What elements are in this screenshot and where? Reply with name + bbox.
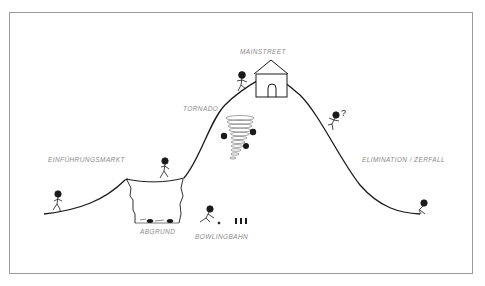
chasm: [127, 179, 183, 223]
lifecycle-illustration: [0, 0, 485, 286]
label-intro-market: EINFÜHRUNGSMARKT: [48, 156, 125, 163]
tornado-icon: [226, 116, 254, 160]
chasm-bridge: [126, 178, 184, 182]
label-decline: ELIMINATION / ZERFALL: [362, 156, 445, 163]
label-abyss: ABGRUND: [140, 228, 175, 235]
label-tornado: TORNADO: [183, 105, 218, 112]
house-icon: [254, 60, 288, 97]
label-bowling-alley: BOWLINGBAHN: [195, 233, 248, 240]
stick-figure-bowling: [200, 206, 220, 224]
question-mark: ?: [341, 108, 346, 118]
label-mainstreet: MAINSTREET: [240, 48, 286, 55]
stick-figure-bridge: [160, 158, 169, 178]
stick-figure-confused: [328, 112, 339, 130]
lifecycle-curve-rise: [184, 76, 420, 214]
stick-figure-climber: [237, 72, 247, 91]
stick-figure-intro: [53, 191, 62, 212]
bowling-pins-icon: [235, 218, 247, 224]
stick-figure-decline: [419, 200, 427, 214]
